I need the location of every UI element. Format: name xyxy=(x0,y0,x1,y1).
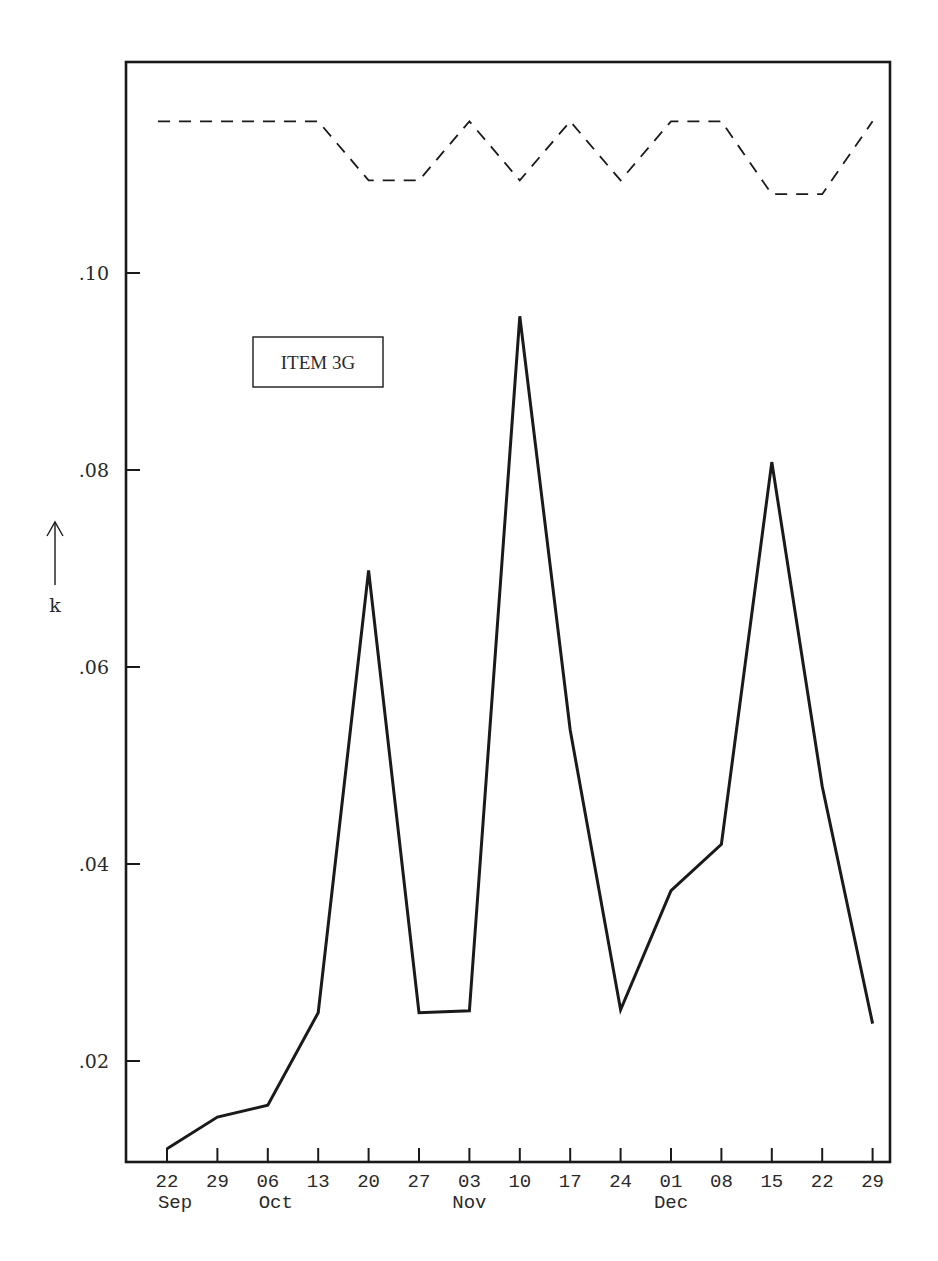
dashed-series-line xyxy=(158,121,873,194)
y-tick-label: .10 xyxy=(79,262,109,284)
x-tick-label: 15 xyxy=(760,1171,783,1193)
x-tick-label: 01 xyxy=(660,1171,683,1193)
x-tick-label: 03 xyxy=(458,1171,481,1193)
y-tick-label: .04 xyxy=(79,853,109,875)
item-label-text: ITEM 3G xyxy=(281,352,356,373)
x-tick-label: 29 xyxy=(861,1171,884,1193)
solid-series-line xyxy=(167,316,873,1148)
x-tick-label: 20 xyxy=(357,1171,380,1193)
x-tick-label: 08 xyxy=(710,1171,733,1193)
x-tick-label: 06 xyxy=(256,1171,279,1193)
y-tick-label: .06 xyxy=(79,656,109,678)
plot-frame xyxy=(126,62,890,1162)
x-tick-label: 13 xyxy=(307,1171,330,1193)
y-tick-label: .08 xyxy=(79,459,109,481)
x-month-label: Dec xyxy=(654,1192,688,1214)
x-month-label: Oct xyxy=(259,1192,293,1214)
y-axis-label: k xyxy=(49,594,61,616)
x-tick-label: 10 xyxy=(508,1171,531,1193)
series-group xyxy=(158,121,873,1148)
x-tick-label: 29 xyxy=(206,1171,229,1193)
x-tick-label: 22 xyxy=(156,1171,179,1193)
plot-border xyxy=(126,62,890,1162)
x-tick-label: 27 xyxy=(408,1171,431,1193)
x-axis: 222906132027031017240108152229SepOctNovD… xyxy=(156,1148,884,1214)
x-tick-label: 24 xyxy=(609,1171,632,1193)
annotation-group: ITEM 3G xyxy=(253,337,383,387)
x-month-label: Nov xyxy=(452,1192,486,1214)
x-month-label: Sep xyxy=(158,1192,192,1214)
x-tick-label: 17 xyxy=(559,1171,582,1193)
x-tick-label: 22 xyxy=(811,1171,834,1193)
line-chart: .02.04.06.08.10k 22290613202703101724010… xyxy=(0,0,938,1261)
y-tick-label: .02 xyxy=(79,1050,109,1072)
